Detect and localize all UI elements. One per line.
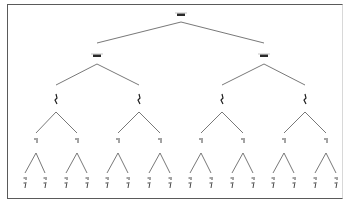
- leaf-node: [148, 177, 151, 188]
- leaf-node: [24, 177, 27, 188]
- leaf-node: [106, 177, 109, 188]
- tree-edge: [149, 153, 160, 173]
- leaf-node: [127, 177, 130, 188]
- tree-node: [34, 138, 37, 143]
- tree-edge: [232, 153, 243, 173]
- tree-edge: [273, 153, 284, 173]
- tree-node: [116, 138, 119, 143]
- tree-node: [258, 54, 270, 57]
- tree-node: [55, 94, 57, 104]
- tree-node: [304, 94, 306, 104]
- tree-edge: [222, 112, 243, 133]
- leaf-node: [44, 177, 47, 188]
- leaf-node: [335, 177, 338, 188]
- tree-edge: [107, 153, 118, 173]
- tree-node: [199, 138, 202, 143]
- tree-node: [324, 138, 327, 143]
- tree-edge: [77, 153, 87, 173]
- tree-edge: [243, 153, 253, 173]
- tree-node: [221, 94, 223, 104]
- tree-edge: [190, 153, 201, 173]
- leaf-node: [65, 177, 68, 188]
- tree-edge: [25, 153, 36, 173]
- tree-edge: [36, 112, 56, 133]
- tree-edge: [160, 153, 170, 173]
- tree-edge: [222, 64, 264, 85]
- leaf-node: [231, 177, 234, 188]
- tree-edge: [56, 112, 77, 133]
- tree-edge: [315, 153, 326, 173]
- leaf-node: [252, 177, 255, 188]
- tree-edge: [36, 153, 45, 173]
- tree-edge: [56, 64, 97, 85]
- tree-edge: [118, 153, 128, 173]
- tree-edges: [25, 22, 336, 173]
- tree-edge: [284, 153, 294, 173]
- tree-edge: [326, 153, 336, 173]
- tree-diagram: [0, 0, 346, 204]
- tree-node: [282, 138, 285, 143]
- leaf-node: [189, 177, 192, 188]
- tree-node: [138, 94, 140, 104]
- leaf-node: [169, 177, 172, 188]
- tree-edge: [201, 153, 211, 173]
- tree-edge: [181, 22, 264, 43]
- tree-node: [175, 13, 187, 16]
- leaf-node: [210, 177, 213, 188]
- tree-edge: [118, 112, 139, 133]
- tree-edge: [305, 112, 326, 133]
- tree-node: [91, 54, 103, 57]
- leaf-node: [272, 177, 275, 188]
- tree-nodes: [24, 13, 338, 188]
- tree-edge: [66, 153, 77, 173]
- tree-edge: [264, 64, 305, 85]
- tree-edge: [284, 112, 305, 133]
- tree-edge: [97, 64, 139, 85]
- tree-node: [241, 138, 244, 143]
- leaf-node: [86, 177, 89, 188]
- leaf-node: [293, 177, 296, 188]
- tree-node: [158, 138, 161, 143]
- tree-edge: [97, 22, 181, 43]
- tree-node: [75, 138, 78, 143]
- tree-edge: [201, 112, 222, 133]
- leaf-node: [314, 177, 317, 188]
- tree-edge: [139, 112, 160, 133]
